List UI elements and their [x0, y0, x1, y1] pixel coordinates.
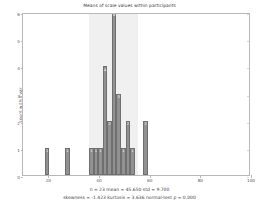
bar-value-label: 2 — [108, 123, 111, 127]
y-tick-label: 4 — [17, 66, 20, 71]
x-tick-label: 60 — [147, 178, 152, 183]
y-tick-mark — [21, 177, 24, 178]
bar-value-label: 1 — [99, 150, 102, 154]
y-tick-mark-right — [247, 68, 250, 69]
bar-value-label: 4 — [104, 69, 107, 73]
histogram-figure: Means of scale values within participant… — [0, 0, 259, 210]
y-tick-mark-right — [247, 14, 250, 15]
bar-value-label: 1 — [95, 150, 98, 154]
histogram-bar: 1 — [45, 148, 50, 175]
y-tick-label: 5 — [17, 39, 20, 44]
y-tick-mark — [21, 41, 24, 42]
histogram-bar: 1 — [130, 148, 135, 175]
y-tick-mark — [21, 150, 24, 151]
y-tick-label: 3 — [17, 93, 20, 98]
bar-value-label: 3 — [117, 96, 120, 100]
chart-title: Means of scale values within participant… — [0, 3, 259, 8]
y-tick-label: 1 — [17, 147, 20, 152]
bar-value-label: 2 — [127, 123, 130, 127]
bar-value-label: 1 — [131, 150, 134, 154]
histogram-bar: 1 — [65, 148, 70, 175]
bar-value-label: 1 — [46, 150, 49, 154]
y-tick-mark-right — [247, 150, 250, 151]
bar-value-label: 1 — [90, 150, 93, 154]
x-tick-label: 100 — [247, 178, 255, 183]
y-tick-mark-right — [247, 123, 250, 124]
stats-annotation: n = 23 mean = 45.650 std = 9.700 skewnes… — [0, 186, 259, 201]
y-tick-mark — [21, 123, 24, 124]
y-tick-label: 6 — [17, 12, 20, 17]
y-tick-mark — [21, 14, 24, 15]
y-tick-mark-right — [247, 41, 250, 42]
y-tick-mark-right — [247, 96, 250, 97]
bar-value-label: 1 — [66, 150, 69, 154]
x-tick-label: 80 — [198, 178, 203, 183]
x-tick-label: 20 — [46, 178, 51, 183]
plot-area: 1111142631212 — [23, 14, 249, 175]
stats-line-1: n = 23 mean = 45.650 std = 9.700 — [0, 186, 259, 194]
bar-value-label: 2 — [144, 123, 147, 127]
y-tick-mark — [21, 96, 24, 97]
bar-value-label: 1 — [122, 150, 125, 154]
x-tick-label: 40 — [96, 178, 101, 183]
bar-value-label: 6 — [113, 14, 116, 18]
y-tick-mark — [21, 68, 24, 69]
y-tick-label: 2 — [17, 120, 20, 125]
stats-line-2: skewness = -1.423 kurtosis = 3.636 norma… — [0, 194, 259, 202]
histogram-bar: 2 — [143, 121, 148, 175]
plot-axes: 1111142631212 0123456 20406080100 — [22, 13, 250, 176]
y-tick-label: 0 — [17, 175, 20, 180]
